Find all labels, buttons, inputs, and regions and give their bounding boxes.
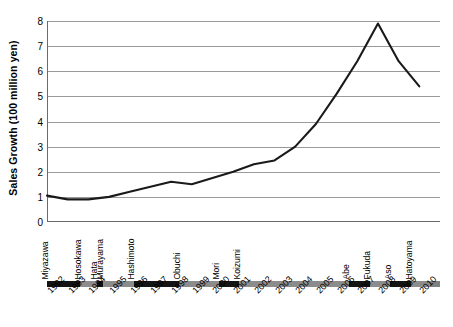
sales-growth-series [47, 21, 440, 222]
y-tick-label-6: 6 [27, 66, 43, 77]
sales-growth-line-chart: Sales Growth (100 million yen) 012345678… [0, 0, 453, 327]
y-tick-label-5: 5 [27, 91, 43, 102]
y-tick-label-0: 0 [27, 217, 43, 228]
y-axis-title-text: Sales Growth (100 million yen) [7, 40, 19, 195]
pm-label-miyazawa: Miyazawa [41, 242, 50, 280]
plot-area [47, 21, 440, 222]
x-axis-year-labels: 1992199319941995199619971998199920002001… [47, 289, 440, 327]
pm-label-koizumi: Koizumi [233, 249, 242, 280]
y-tick-label-3: 3 [27, 141, 43, 152]
y-tick-label-4: 4 [27, 116, 43, 127]
y-tick-label-7: 7 [27, 41, 43, 52]
pm-label-hashimoto: Hashimoto [128, 239, 137, 280]
y-tick-label-1: 1 [27, 191, 43, 202]
y-tick-label-2: 2 [27, 166, 43, 177]
y-tick-label-8: 8 [27, 16, 43, 27]
prime-minister-labels: MiyazawaHosokawaHataMurayamaHashimotoObu… [47, 226, 440, 280]
y-axis-title: Sales Growth (100 million yen) [0, 0, 26, 235]
